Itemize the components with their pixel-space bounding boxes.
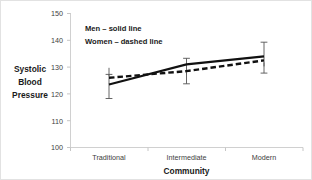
y-tick-label-130: 130 [51,63,63,72]
y-axis-title-line-2: Blood [18,77,42,87]
x-tick-label-traditional: Traditional [92,153,126,162]
y-tick-label-120: 120 [51,90,63,99]
y-tick-label-150: 150 [51,9,63,18]
y-axis-title: Systolic Blood Pressure [12,64,48,100]
chart-figure: 150 140 130 120 110 100 Traditional Inte… [0,0,312,180]
y-axis-title-line-1: Systolic [14,64,46,74]
error-bars-women [109,62,267,83]
y-axis-title-line-3: Pressure [12,90,48,100]
chart-legend: Men – solid line Women – dashed line [85,24,163,46]
x-tick-labels: Traditional Intermediate Modern [92,153,276,162]
x-tick-marks [71,148,304,152]
x-tick-label-modern: Modern [252,153,276,162]
x-axis-title: Community [163,166,209,176]
legend-item-women: Women – dashed line [85,37,163,46]
systolic-blood-pressure-line-chart: 150 140 130 120 110 100 Traditional Inte… [1,1,312,180]
y-tick-labels: 150 140 130 120 110 100 [51,9,63,152]
y-tick-label-110: 110 [52,117,63,126]
y-tick-label-140: 140 [51,36,63,45]
y-tick-label-100: 100 [51,143,63,152]
legend-item-men: Men – solid line [85,24,142,33]
x-tick-label-intermediate: Intermediate [167,153,207,162]
y-tick-marks [67,14,71,148]
